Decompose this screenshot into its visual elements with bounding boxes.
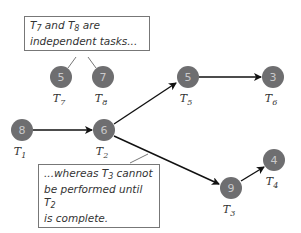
task-label: T6 xyxy=(265,92,277,107)
callout-line-3: is complete. xyxy=(44,212,108,224)
node-weight: 7 xyxy=(100,71,107,84)
task-label: T1 xyxy=(14,145,26,160)
task-label: T5 xyxy=(180,92,192,107)
callout-line-2: be performed until T2 xyxy=(44,183,142,208)
task-node-t6: 3T6 xyxy=(262,66,284,107)
callout-line-1: ...whereas T3 cannot xyxy=(44,167,153,179)
callout-connector-t7 xyxy=(68,57,76,68)
task-node-t7: 5T7 xyxy=(50,66,72,107)
task-node-t4: 4T4 xyxy=(263,149,285,190)
node-weight: 9 xyxy=(228,182,235,195)
node-weight: 5 xyxy=(185,71,192,84)
callout-connector-t2 xyxy=(130,154,148,163)
node-weight: 6 xyxy=(101,124,108,137)
task-label: T3 xyxy=(223,203,235,218)
task-label: T7 xyxy=(53,92,66,107)
task-node-t2: 6T2 xyxy=(93,119,115,160)
node-weight: 8 xyxy=(19,124,26,137)
task-node-t8: 7T8 xyxy=(92,66,114,107)
task-label: T2 xyxy=(96,145,108,160)
callout-independent-tasks: T7 and T8 are independent tasks... xyxy=(24,16,150,51)
callout-line-1: T7 and T8 are xyxy=(30,19,100,31)
task-node-t5: 5T5 xyxy=(177,66,199,107)
node-weight: 3 xyxy=(270,71,277,84)
edge-t3-t4 xyxy=(241,167,264,181)
node-weight: 5 xyxy=(58,71,65,84)
callout-line-2: independent tasks... xyxy=(30,35,137,47)
node-weight: 4 xyxy=(271,154,278,167)
task-label: T4 xyxy=(266,175,278,190)
callout-dependent-tasks: ...whereas T3 cannot be performed until … xyxy=(38,164,160,228)
callout-connector-t8 xyxy=(88,57,96,68)
edge-t2-t5 xyxy=(114,83,176,124)
task-node-t3: 9T3 xyxy=(220,177,242,218)
task-node-t1: 8T1 xyxy=(11,119,33,160)
task-label: T8 xyxy=(95,92,107,107)
